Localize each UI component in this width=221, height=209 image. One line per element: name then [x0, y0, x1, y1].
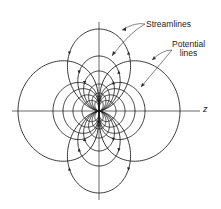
potential-lines-label: Potential lines	[172, 40, 205, 58]
flow-arrow-icon	[78, 148, 81, 151]
streamlines-label: Streamlines	[146, 20, 191, 29]
flow-arrow-icon	[117, 70, 120, 73]
flow-arrow-icon	[127, 167, 130, 170]
flow-arrow-icon	[68, 167, 71, 170]
flow-arrow-icon	[117, 148, 120, 151]
z-axis-label: z	[203, 105, 208, 114]
label-leader-lines	[112, 24, 172, 87]
flow-arrow-icon	[68, 51, 71, 54]
dipole-flow-diagram	[0, 0, 221, 209]
leader-arrowhead	[122, 27, 126, 31]
potential-label-line2: lines	[172, 49, 205, 58]
flow-arrow-icon	[127, 51, 130, 54]
streamline-leader-2	[112, 24, 145, 56]
flow-arrow-icon	[78, 70, 81, 73]
potential-leader-2	[141, 50, 172, 87]
leader-arrowhead	[141, 83, 145, 87]
